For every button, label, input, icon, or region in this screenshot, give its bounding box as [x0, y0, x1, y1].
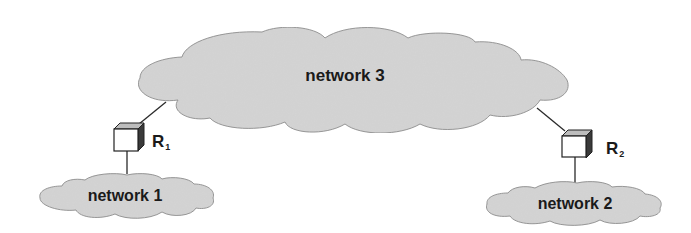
network-1-label: network 1: [88, 187, 163, 204]
router-r1-subscript: 1: [165, 142, 170, 152]
router-r2-label: R2: [606, 139, 624, 159]
router-r2-letter: R: [606, 139, 618, 158]
link-r2-network3: [537, 108, 565, 131]
network-diagram: network 3 network 1 network 2 R1 R2: [0, 0, 691, 233]
network-2-label: network 2: [538, 195, 613, 212]
router-r1-label: R1: [152, 132, 170, 152]
link-r1-network3: [139, 102, 166, 124]
router-r1-icon[interactable]: [114, 123, 144, 151]
network-3-label: network 3: [305, 66, 384, 85]
router-r2-icon[interactable]: [562, 130, 592, 158]
router-r2-subscript: 2: [619, 149, 624, 159]
router-r1-letter: R: [152, 132, 164, 151]
